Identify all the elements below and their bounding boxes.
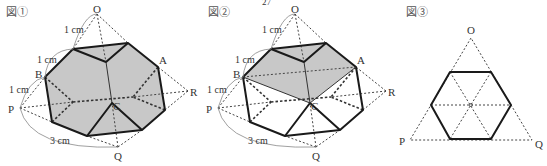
figure-3: 図③ O P Q — [399, 6, 543, 150]
figure-1-label-Q: Q — [114, 150, 122, 162]
figure-1: 図① — [6, 3, 198, 162]
figure-1-label-O: O — [93, 3, 101, 15]
figure-1-label-P: P — [8, 103, 14, 115]
figure-2-measure-3: 1 cm — [207, 84, 227, 95]
figure-1-label-C: C — [113, 100, 120, 112]
figure-2-label-B: B — [233, 68, 240, 80]
figure-1-label-B: B — [35, 68, 42, 80]
figure-3-diagonals — [431, 72, 511, 139]
figure-3-label-O: O — [467, 24, 475, 36]
page-number: 27 — [262, 0, 272, 7]
figure-2-measure-1: 1 cm — [262, 24, 282, 35]
figure-3-title: 図③ — [406, 6, 428, 18]
figure-1-measure-1: 1 cm — [64, 24, 84, 35]
figure-2-measure-2: 1 cm — [235, 54, 255, 65]
figure-2-label-P: P — [206, 103, 212, 115]
figure-1-measure-3: 1 cm — [9, 84, 29, 95]
figure-2-label-Q: Q — [312, 150, 320, 162]
figure-2-label-A: A — [357, 54, 365, 66]
figure-2: 図② — [206, 3, 396, 162]
figure-2-measure-4: 3 cm — [248, 135, 268, 146]
figure-1-label-R: R — [190, 86, 198, 98]
figure-3-triangle-OPQ — [410, 38, 532, 140]
figure-3-label-P: P — [399, 135, 405, 147]
figure-1-label-A: A — [159, 54, 167, 66]
figure-2-shaded-section — [243, 43, 356, 103]
figure-1-measure-4: 3 cm — [50, 135, 70, 146]
figure-2-label-O: O — [291, 3, 299, 15]
figure-2-label-R: R — [388, 86, 396, 98]
figure-1-measure-2: 1 cm — [37, 54, 57, 65]
figure-2-title: 図② — [208, 6, 230, 18]
figure-3-label-Q: Q — [535, 138, 543, 150]
figure-2-label-C: C — [311, 100, 318, 112]
figure-1-title: 図① — [6, 6, 28, 18]
diagram-canvas: 27 図① — [0, 0, 547, 166]
